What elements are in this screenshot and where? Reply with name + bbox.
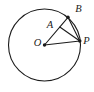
point-dot-P [78, 39, 81, 42]
segment-OP [45, 41, 80, 45]
point-label-A: A [46, 19, 54, 30]
point-label-P: P [82, 35, 90, 46]
circle-geometry-diagram: OABP [0, 0, 94, 92]
point-label-O: O [34, 37, 42, 48]
point-label-B: B [75, 3, 82, 14]
point-dot-B [66, 16, 69, 19]
point-dot-O [43, 43, 46, 46]
geometry-figure-canvas: OABP [0, 0, 94, 92]
